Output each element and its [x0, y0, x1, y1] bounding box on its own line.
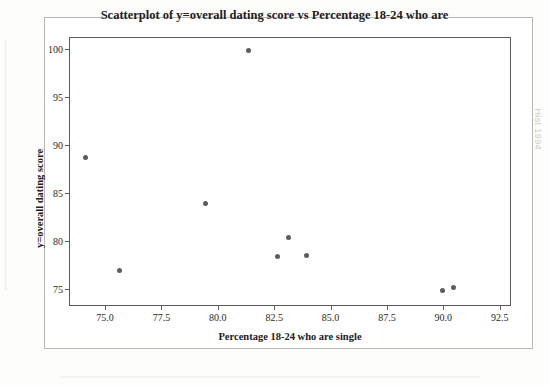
- x-tick-label: 92.5: [491, 312, 509, 323]
- x-tick-mark: [274, 306, 275, 310]
- data-point: [246, 48, 251, 53]
- data-point: [117, 268, 122, 273]
- chart-title: Scatterplot of y=overall dating score vs…: [0, 8, 549, 23]
- x-tick-mark: [331, 306, 332, 310]
- x-tick-label: 75.0: [96, 312, 114, 323]
- data-point: [451, 285, 456, 290]
- y-tick-label: 75: [35, 283, 63, 294]
- y-tick-label: 95: [35, 92, 63, 103]
- x-tick-label: 85.0: [322, 312, 340, 323]
- y-tick-label: 100: [35, 44, 63, 55]
- x-tick-mark: [161, 306, 162, 310]
- y-tick-mark: [65, 49, 69, 50]
- data-point: [83, 155, 88, 160]
- data-point: [275, 254, 280, 259]
- ghost-text-right: Hist 1994: [533, 108, 543, 150]
- y-tick-mark: [65, 145, 69, 146]
- data-point: [203, 201, 208, 206]
- x-tick-mark: [105, 306, 106, 310]
- scatterplot-figure: Hist 1994 Scatterplot of y=overall datin…: [0, 0, 549, 385]
- x-tick-mark: [218, 306, 219, 310]
- x-tick-mark: [387, 306, 388, 310]
- data-point: [304, 253, 309, 258]
- y-tick-mark: [65, 97, 69, 98]
- x-axis-title: Percentage 18-24 who are single: [69, 331, 511, 342]
- y-tick-mark: [65, 193, 69, 194]
- y-tick-mark: [65, 289, 69, 290]
- x-tick-label: 87.5: [378, 312, 396, 323]
- x-tick-label: 90.0: [435, 312, 453, 323]
- data-point: [440, 288, 445, 293]
- x-tick-mark: [500, 306, 501, 310]
- x-tick-label: 77.5: [153, 312, 171, 323]
- y-tick-mark: [65, 241, 69, 242]
- plot-area: [69, 37, 511, 306]
- y-axis-title: y=overall dating score: [34, 149, 45, 248]
- data-point: [286, 235, 291, 240]
- x-tick-label: 80.0: [209, 312, 227, 323]
- scan-artifact-left: [4, 40, 7, 290]
- x-tick-label: 82.5: [265, 312, 283, 323]
- x-tick-mark: [443, 306, 444, 310]
- scan-artifact-bottom: [60, 376, 480, 378]
